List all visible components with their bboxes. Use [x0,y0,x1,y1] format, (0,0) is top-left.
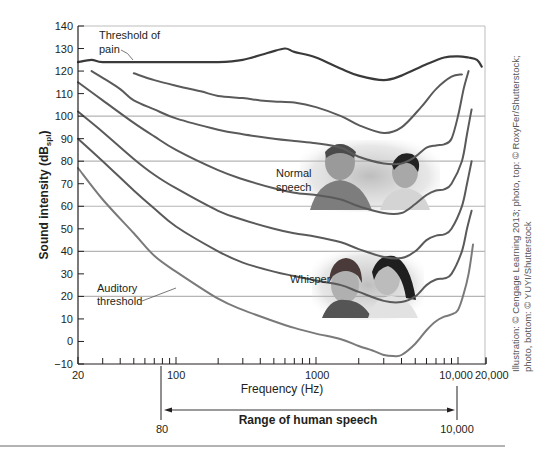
range-from-label: 80 [156,423,168,435]
hearing-range-chart: −100102030405060708090100110120130140 20… [0,0,559,459]
svg-text:threshold: threshold [97,295,142,307]
range-to-label: 10,000 [440,423,474,435]
y-tick-label: 90 [61,133,73,145]
y-tick-label: 10 [61,313,73,325]
y-tick-label: 50 [61,223,73,235]
x-tick-label: 1000 [305,369,329,381]
y-tick-label: 20 [61,290,73,302]
annotation-threshold-of-pain: Threshold of pain [99,29,161,60]
curve-equal-loudness-100-phon [134,73,462,133]
photo-whisper [312,250,424,320]
y-tick-label: 0 [67,335,73,347]
y-tick-label: 40 [61,245,73,257]
y-tick-label: 60 [61,200,73,212]
svg-text:Auditory: Auditory [97,282,138,294]
y-tick-label: 110 [55,88,73,100]
y-tick-label: 140 [55,20,73,32]
y-axis-title: Sound intensity (dBspl) [37,131,53,260]
svg-text:Normal: Normal [276,167,311,179]
x-tick-label: 20 [72,369,84,381]
x-tick-label: 100 [167,369,185,381]
x-tick-label: 20,000 [475,369,509,381]
svg-text:pain: pain [99,43,120,55]
y-tick-label: 30 [61,268,73,280]
range-label: Range of human speech [239,413,378,427]
annotation-auditory-threshold: Auditory threshold [97,282,176,307]
y-tick-label: 70 [61,178,73,190]
x-axis: 20100100010,00020,000 [72,357,509,381]
svg-text:Threshold of: Threshold of [99,29,161,41]
annotation-whisper: Whisper [290,273,331,285]
image-credit: Illustration: © Cengage Learning 2013; p… [510,12,534,372]
svg-text:Whisper: Whisper [290,273,331,285]
arrow-right-icon [447,408,455,413]
svg-text:speech: speech [276,181,311,193]
arrow-left-icon [164,408,172,413]
y-axis: −100102030405060708090100110120130140 [54,20,84,370]
y-tick-label: 120 [55,65,73,77]
y-tick-label: 80 [61,155,73,167]
x-tick-label: 10,000 [439,369,473,381]
y-tick-label: −10 [54,358,73,370]
y-tick-label: 100 [55,110,73,122]
y-tick-label: 130 [55,43,73,55]
x-axis-title: Frequency (Hz) [241,382,324,396]
